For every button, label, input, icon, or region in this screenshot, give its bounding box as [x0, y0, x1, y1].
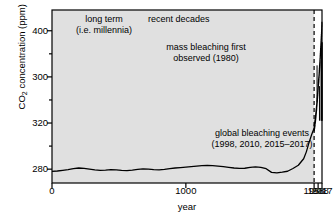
annotation-recent-decades: recent decades [148, 14, 210, 25]
annotation-mass-bleaching-line1: mass bleaching first [166, 42, 246, 52]
annotation-long-term-line1: long term [85, 14, 123, 24]
annotation-mass-bleaching: mass bleaching firstobserved (1980) [148, 42, 264, 63]
annotation-long-term-line2: (i.e. millennia) [76, 25, 132, 35]
annotation-global-bleaching-events-line2: (1998, 2010, 2015–2017) [211, 139, 312, 149]
annotation-long-term: long term(i.e. millennia) [62, 14, 146, 35]
plot-area [0, 0, 335, 218]
shaded-long-term-region [52, 10, 314, 183]
annotation-mass-bleaching-line2: observed (1980) [173, 53, 239, 63]
co2-concentration-chart: CO2 concentration (ppm) 280320300400 010… [0, 0, 335, 218]
annotation-recent-decades-line1: recent decades [148, 14, 210, 24]
annotation-global-bleaching-events-line1: global bleaching events [215, 128, 309, 138]
annotation-global-bleaching-events: global bleaching events(1998, 2010, 2015… [196, 128, 328, 149]
